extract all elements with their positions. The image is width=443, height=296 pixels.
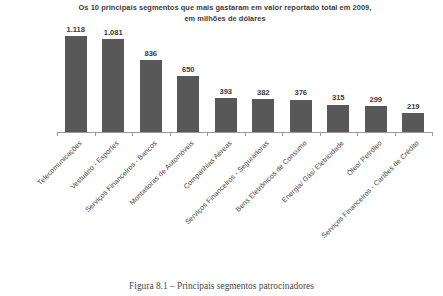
bar-group: 219	[395, 24, 433, 132]
plot-area: 1.1181.081836650393382376315299219	[57, 24, 432, 132]
bar	[215, 98, 237, 132]
bar	[327, 105, 349, 132]
bar-group: 393	[207, 24, 245, 132]
bar-group: 836	[132, 24, 170, 132]
axis-tick	[207, 132, 208, 136]
bar	[402, 113, 424, 132]
bar	[252, 99, 274, 132]
bar	[102, 39, 124, 132]
axis-tick	[320, 132, 321, 136]
category-label: Óleo/ Petróleo	[166, 139, 384, 296]
chart-title: Os 10 principais segmentos que mais gast…	[40, 3, 410, 24]
bar	[365, 106, 387, 132]
axis-tick	[357, 132, 358, 136]
category-label: Companhias Aéreas	[16, 139, 234, 296]
bar-value-label: 393	[207, 87, 245, 96]
bar-value-label: 299	[357, 95, 395, 104]
bar-group: 1.118	[57, 24, 95, 132]
axis-tick	[170, 132, 171, 136]
bar-group: 1.081	[95, 24, 133, 132]
bar-value-label: 650	[170, 65, 208, 74]
bar-value-label: 376	[282, 88, 320, 97]
axis-tick	[432, 132, 433, 136]
bar-value-label: 1.118	[57, 25, 95, 34]
figure-container: Os 10 principais segmentos que mais gast…	[0, 0, 443, 296]
axis-tick	[395, 132, 396, 136]
axis-tick	[57, 132, 58, 136]
bar-group: 650	[170, 24, 208, 132]
bar-group: 315	[320, 24, 358, 132]
chart-title-line-2: em milhões de dólares	[40, 14, 410, 25]
bar-value-label: 1.081	[95, 28, 133, 37]
bar-value-label: 219	[395, 102, 433, 111]
bar-group: 299	[357, 24, 395, 132]
chart-title-line-1: Os 10 principais segmentos que mais gast…	[79, 3, 372, 12]
axis-tick	[132, 132, 133, 136]
bar-value-label: 836	[132, 49, 170, 58]
axis-tick	[95, 132, 96, 136]
category-label: Bens Eletrônicos de Consumo	[91, 139, 309, 296]
bar-value-label: 315	[320, 93, 358, 102]
bar	[140, 60, 162, 132]
bar	[65, 36, 87, 132]
bar-group: 382	[245, 24, 283, 132]
bar	[290, 100, 312, 132]
axis-tick	[282, 132, 283, 136]
axis-tick	[245, 132, 246, 136]
bar-value-label: 382	[245, 88, 283, 97]
bar-group: 376	[282, 24, 320, 132]
bar	[177, 76, 199, 132]
figure-caption: Figura 8.1 – Principais segmentos patroc…	[0, 281, 443, 291]
